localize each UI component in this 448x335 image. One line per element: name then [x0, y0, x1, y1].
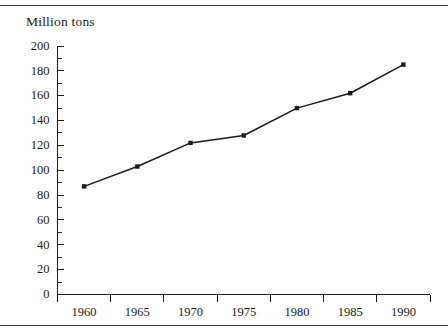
y-axis-tick-label: 80	[16, 189, 50, 202]
x-axis-tick-label: 1975	[218, 306, 270, 319]
y-axis-tick-label: 20	[16, 263, 50, 276]
x-axis-tick-label: 1985	[324, 306, 376, 319]
series-line-million-tons	[84, 65, 403, 187]
chart-tick-marks	[58, 46, 431, 302]
y-axis-tick-label: 160	[16, 89, 50, 102]
chart-figure: Million tons 020406080100120140160180200…	[0, 0, 448, 335]
chart-axes	[58, 46, 431, 295]
y-axis-tick-label: 40	[16, 239, 50, 252]
data-point-marker	[242, 133, 246, 137]
line-chart-plot	[0, 0, 448, 335]
x-axis-tick-label: 1980	[271, 306, 323, 319]
x-axis-tick-label: 1970	[165, 306, 217, 319]
y-axis-tick-label: 60	[16, 214, 50, 227]
y-axis-tick-label: 180	[16, 65, 50, 78]
y-axis-tick-label: 100	[16, 164, 50, 177]
data-point-marker	[135, 164, 139, 168]
x-axis-tick-label: 1990	[377, 306, 429, 319]
x-axis-tick-label: 1965	[111, 306, 163, 319]
y-axis-tick-label: 120	[16, 139, 50, 152]
y-axis-tick-label: 200	[16, 40, 50, 53]
x-axis-tick-label: 1960	[58, 306, 110, 319]
data-point-marker	[295, 106, 299, 110]
data-point-marker	[348, 91, 352, 95]
y-axis-tick-label: 0	[16, 288, 50, 301]
data-point-marker	[401, 62, 405, 66]
data-point-marker	[82, 184, 86, 188]
data-point-marker	[188, 141, 192, 145]
y-axis-tick-label: 140	[16, 114, 50, 127]
data-series-line	[84, 65, 403, 187]
